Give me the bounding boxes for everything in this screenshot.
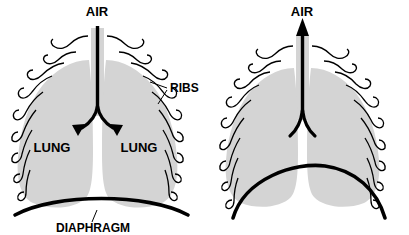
lung-right-label: LUNG [121, 140, 158, 155]
respiration-diagram: AIR LUNG LUNG RIBS DIAPHRAGM [0, 0, 409, 235]
rib-left-1 [249, 61, 281, 73]
clavicle-left [51, 36, 88, 48]
exhalation-panel: AIR [205, 0, 409, 235]
lung-right-shape [102, 60, 177, 208]
clavicle-right [107, 36, 144, 48]
rib-left-1 [44, 52, 76, 64]
inhalation-illustration: AIR LUNG LUNG RIBS DIAPHRAGM [0, 0, 204, 235]
rib-right-1 [324, 61, 356, 73]
air-label: AIR [86, 4, 109, 19]
diaphragm-label: DIAPHRAGM [56, 221, 130, 235]
air-label: AIR [291, 4, 314, 19]
lung-left-label: LUNG [34, 140, 71, 155]
exhalation-illustration: AIR [205, 0, 409, 235]
lung-left-shape [226, 68, 298, 207]
ribs-label: RIBS [170, 81, 199, 95]
inhalation-panel: AIR LUNG LUNG RIBS DIAPHRAGM [0, 0, 204, 235]
lung-left-shape [18, 60, 93, 208]
air-out-arrowhead [296, 18, 309, 36]
rib-right-1 [119, 52, 151, 64]
clavicle-left [256, 46, 293, 58]
clavicle-right [312, 46, 349, 58]
